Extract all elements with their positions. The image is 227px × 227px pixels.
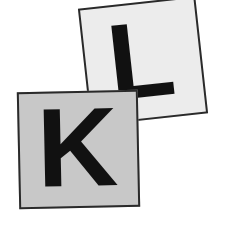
letter-tile-k: K	[17, 90, 140, 210]
letter-tiles-scene: L K	[0, 0, 227, 227]
tile-letter-k: K	[36, 91, 119, 205]
